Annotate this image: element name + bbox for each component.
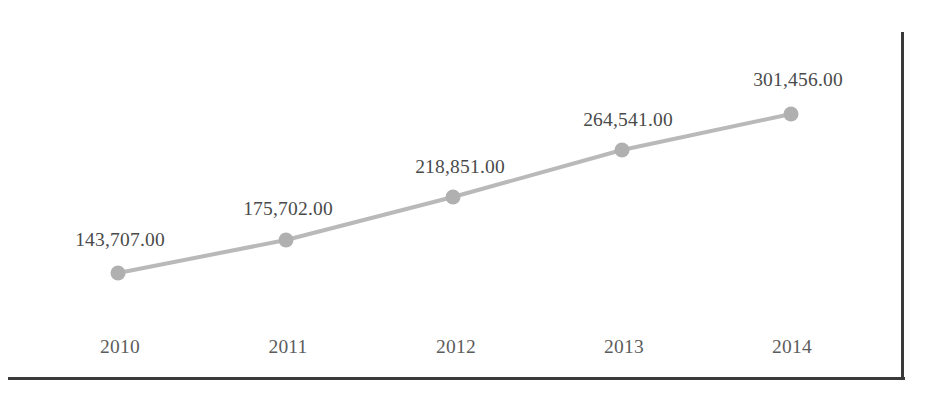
data-point-2010 (111, 266, 126, 281)
x-tick-label-2012: 2012 (436, 336, 476, 358)
data-label-2010: 143,707.00 (75, 229, 165, 251)
data-label-2013: 264,541.00 (583, 109, 673, 131)
data-point-2013 (615, 143, 630, 158)
data-label-2012: 218,851.00 (415, 156, 505, 178)
x-tick-label-2011: 2011 (268, 336, 307, 358)
data-label-2014: 301,456.00 (753, 69, 843, 91)
data-point-2014 (784, 107, 799, 122)
chart-page: 143,707.00 175,702.00 218,851.00 264,541… (0, 0, 933, 400)
data-point-2011 (279, 233, 294, 248)
x-tick-label-2010: 2010 (100, 336, 140, 358)
data-point-2012 (446, 190, 461, 205)
x-tick-label-2014: 2014 (772, 336, 812, 358)
data-label-2011: 175,702.00 (243, 198, 333, 220)
x-tick-label-2013: 2013 (604, 336, 644, 358)
